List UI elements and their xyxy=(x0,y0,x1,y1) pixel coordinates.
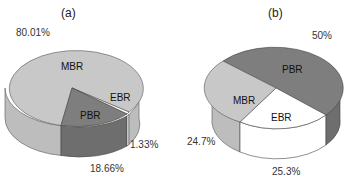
ebr-percent: 25.3% xyxy=(272,166,300,177)
mbr-label: MBR xyxy=(61,61,83,72)
mbr-label: MBR xyxy=(233,95,255,106)
pbr-label: PBR xyxy=(80,110,101,121)
chart-b-title: (b) xyxy=(268,6,283,20)
chart-a-title: (a) xyxy=(61,6,76,20)
pie-chart-b: PBR MBR EBR (b) 50% 24.7% 25.3% xyxy=(172,0,344,184)
ebr-label: EBR xyxy=(110,92,131,103)
pbr-percent: 50% xyxy=(312,30,332,41)
mbr-percent: 80.01% xyxy=(16,27,50,38)
pbr-percent: 18.66% xyxy=(90,163,124,174)
pie-chart-a: MBR PBR EBR (a) 80.01% 1.33% 18.66% xyxy=(0,0,172,184)
pie-chart-b-graphic: PBR MBR EBR xyxy=(172,0,344,184)
mbr-percent: 24.7% xyxy=(187,136,215,147)
pbr-label: PBR xyxy=(282,64,303,75)
ebr-label: EBR xyxy=(271,112,292,123)
ebr-percent: 1.33% xyxy=(130,139,158,150)
